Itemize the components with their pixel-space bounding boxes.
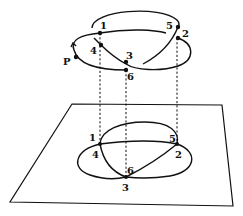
label-1: 1 xyxy=(100,20,107,31)
proj-label-1: 1 xyxy=(89,132,96,143)
point-2 xyxy=(176,36,180,40)
label-5: 5 xyxy=(166,20,173,31)
proj-label-5: 5 xyxy=(169,133,176,144)
point-5 xyxy=(176,25,180,29)
point-1 xyxy=(98,31,102,35)
proj-label-2: 2 xyxy=(175,149,182,160)
proj-label-6: 6 xyxy=(127,165,134,176)
proj-point-1-4 xyxy=(98,142,102,146)
label-2: 2 xyxy=(182,28,189,39)
knot-projection-diagram: P 1 2 3 4 5 6 1 4 5 2 6 3 xyxy=(0,0,243,216)
point-P xyxy=(74,55,78,59)
point-4 xyxy=(99,43,103,47)
label-4: 4 xyxy=(90,45,97,56)
proj-label-3: 3 xyxy=(122,182,129,193)
proj-label-4: 4 xyxy=(92,149,99,160)
label-3: 3 xyxy=(126,50,133,61)
label-6: 6 xyxy=(127,71,134,82)
label-P: P xyxy=(63,56,71,67)
